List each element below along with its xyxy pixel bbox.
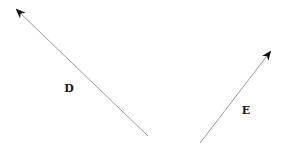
vector-e-arrow — [200, 52, 270, 143]
vector-d-arrow — [17, 10, 148, 136]
vector-d-label: D — [64, 83, 74, 94]
vector-e-label: E — [242, 105, 250, 116]
vector-diagram — [0, 0, 281, 150]
